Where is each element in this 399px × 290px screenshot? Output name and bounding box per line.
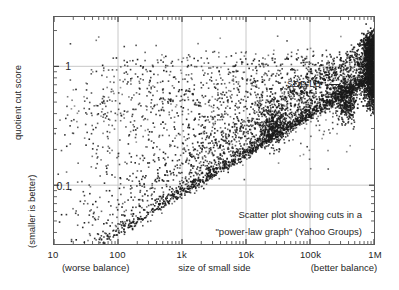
x-tick-label-10k: 10k [238, 249, 254, 260]
x-tick-label-100: 100 [109, 249, 125, 260]
x-axis-right-note: (better balance) [311, 262, 378, 273]
y-tick-label-0.1: 0.1 [56, 180, 71, 192]
sdp-lb-dash-marker [330, 84, 340, 85]
x-tick-label-1k: 1k [177, 249, 187, 260]
x-axis-left-note: (worse balance) [62, 262, 130, 273]
y-axis-subtitle: (smaller is better) [26, 175, 37, 248]
figure-root: Scatter plot showing cuts in a "power-la… [0, 0, 399, 290]
x-axis-title: size of small side [178, 262, 250, 273]
plot-area: Scatter plot showing cuts in a "power-la… [53, 16, 375, 245]
sdp-lb-annotation-label: SDP-LB [287, 79, 321, 89]
annotation-line-2: "power-law graph" (Yahoo Groups) [216, 226, 363, 237]
annotation-line-1: Scatter plot showing cuts in a [238, 209, 362, 220]
y-tick-label-1: 1 [65, 60, 71, 72]
x-tick-label-10: 10 [48, 249, 59, 260]
x-tick-label-100k: 100k [300, 249, 321, 260]
x-tick-label-1M: 1M [368, 249, 382, 260]
y-axis-title: quotient cut score [12, 65, 23, 140]
